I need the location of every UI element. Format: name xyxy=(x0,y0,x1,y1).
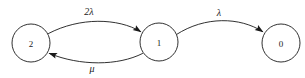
edge-1-to-2-path xyxy=(50,54,143,63)
diagram-canvas: 2λ μ λ 2 1 0 xyxy=(0,0,305,78)
node-state-1-label: 1 xyxy=(157,38,162,48)
node-state-2: 2 xyxy=(12,24,50,62)
edge-1-to-0: λ xyxy=(177,7,266,35)
edge-1-to-0-path xyxy=(177,21,263,35)
node-state-1: 1 xyxy=(140,23,178,61)
node-state-2-label: 2 xyxy=(29,39,34,49)
edge-2-to-1-arrowhead xyxy=(133,25,143,35)
edge-2-to-1-path xyxy=(49,21,141,33)
state-transition-diagram: 2λ μ λ 2 1 0 xyxy=(0,0,305,78)
edge-2-to-1-label: 2λ xyxy=(84,6,94,17)
node-state-0-label: 0 xyxy=(279,39,284,49)
edge-1-to-2: μ xyxy=(48,50,143,74)
node-state-0: 0 xyxy=(262,24,300,62)
edge-1-to-2-arrowhead xyxy=(48,50,58,59)
edge-1-to-0-arrowhead xyxy=(255,25,265,35)
edge-1-to-2-label: μ xyxy=(88,63,94,74)
edge-2-to-1: 2λ xyxy=(49,6,143,35)
edge-1-to-0-label: λ xyxy=(216,7,222,18)
